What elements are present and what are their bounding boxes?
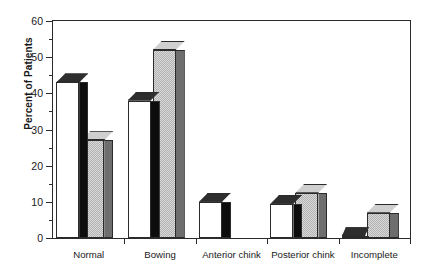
- x-tick: [267, 238, 268, 244]
- bar-incomplete-white: [342, 236, 365, 238]
- x-tick-label: Incomplete: [351, 249, 398, 260]
- x-tick-label: Anterior chink: [202, 249, 261, 260]
- bar-top-face: [342, 227, 369, 236]
- bar-side-face: [365, 236, 369, 238]
- bar-side-face: [222, 202, 231, 238]
- y-tick-major: [46, 57, 53, 58]
- bar-top-face: [56, 73, 88, 82]
- y-axis-title: Percent of Patients: [23, 4, 34, 164]
- y-tick-minor: [49, 148, 53, 149]
- bar-normal-white: [56, 82, 79, 238]
- bar-incomplete-gray: [367, 213, 390, 238]
- chart-figure: Percent of Patients 0102030405060 Normal…: [0, 0, 433, 273]
- x-tick: [410, 238, 411, 244]
- y-tick-minor: [49, 111, 53, 112]
- bar-front-face: [342, 236, 365, 238]
- y-tick-minor: [49, 220, 53, 221]
- x-tick: [339, 238, 340, 244]
- y-tick-label: 60: [31, 15, 43, 27]
- plot-area: 0102030405060 NormalBowingAnterior chink…: [52, 20, 411, 239]
- bar-side-face: [79, 82, 88, 238]
- bar-bowing-white: [128, 101, 151, 238]
- bar-side-face: [104, 140, 113, 238]
- y-tick-label: 50: [31, 51, 43, 63]
- bar-top-face: [153, 41, 185, 50]
- bar-side-face: [390, 213, 399, 238]
- y-tick-minor: [49, 184, 53, 185]
- bar-front-face: [56, 82, 79, 238]
- bar-side-face: [151, 101, 160, 238]
- bar-front-face: [128, 101, 151, 238]
- y-tick-label: 30: [31, 124, 43, 136]
- y-tick-label: 40: [31, 87, 43, 99]
- bar-top-face: [199, 193, 231, 202]
- y-tick-major: [46, 93, 53, 94]
- y-tick-major: [46, 130, 53, 131]
- y-tick-minor: [49, 39, 53, 40]
- y-tick-minor: [49, 75, 53, 76]
- bar-top-face: [295, 184, 327, 193]
- x-tick-label: Posterior chink: [271, 249, 334, 260]
- bar-top-face: [367, 204, 399, 213]
- x-tick: [124, 238, 125, 244]
- bar-anterior-chink-white: [199, 202, 222, 238]
- bar-side-face: [293, 204, 302, 238]
- bar-side-face: [176, 50, 185, 238]
- y-tick-major: [46, 21, 53, 22]
- x-tick: [196, 238, 197, 244]
- x-tick-label: Bowing: [144, 249, 175, 260]
- bar-side-face: [318, 193, 327, 238]
- bar-front-face: [270, 204, 293, 238]
- y-tick-label: 20: [31, 160, 43, 172]
- y-tick-major: [46, 238, 53, 239]
- bar-posterior-chink-white: [270, 204, 293, 238]
- y-tick-label: 0: [37, 232, 43, 244]
- x-tick-label: Normal: [73, 249, 104, 260]
- y-tick-label: 10: [31, 196, 43, 208]
- bar-front-face: [367, 213, 390, 238]
- bar-front-face: [199, 202, 222, 238]
- y-tick-major: [46, 166, 53, 167]
- y-tick-major: [46, 202, 53, 203]
